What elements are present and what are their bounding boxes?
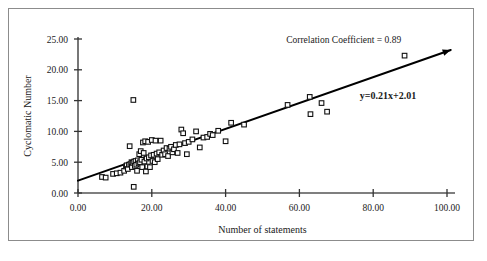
data-point-marker [210,133,215,138]
x-tick-label: 80.00 [363,203,385,213]
data-point-marker [135,169,140,174]
x-tick-label: 40.00 [215,203,237,213]
x-axis-title: Number of statements [218,224,306,235]
x-tick-label: 60.00 [289,203,311,213]
data-point-marker [216,128,221,133]
data-point-marker [325,109,330,114]
data-point-marker [148,165,153,170]
data-points-group [100,53,407,189]
data-point-marker [194,129,199,134]
y-tick-label: 15.00 [47,96,69,106]
data-point-marker [153,138,158,143]
data-point-marker [177,142,182,147]
scatter-plot: 0.0020.0040.0060.0080.00100.000.005.0010… [9,9,475,242]
y-tick-label: 20.00 [47,65,69,75]
data-point-marker [307,95,312,100]
data-point-marker [185,152,190,157]
x-tick-label: 20.00 [141,203,163,213]
data-point-marker [308,112,313,117]
data-point-marker [127,144,132,149]
data-point-marker [319,101,324,106]
trendline-arrow-head [442,49,451,55]
data-point-marker [190,137,195,142]
y-tick-label: 10.00 [47,127,69,137]
data-point-marker [402,53,407,58]
data-point-marker [131,98,136,103]
correlation-coefficient-label: Correlation Coefficient = 0.89 [286,35,401,45]
y-tick-label: 25.00 [47,35,69,45]
data-point-marker [158,138,163,143]
axes-group [74,37,455,197]
x-tick-label: 100.00 [434,203,460,213]
y-tick-label: 5.00 [51,158,68,168]
data-point-marker [175,151,180,156]
data-point-marker [181,131,186,136]
axis-labels-group: 0.0020.0040.0060.0080.00100.000.005.0010… [22,35,460,236]
x-tick-label: 0.00 [70,203,87,213]
data-point-marker [242,122,247,127]
y-tick-label: 0.00 [51,189,68,199]
data-point-marker [141,151,146,156]
y-axis-title: Cyclomatic Number [22,75,33,157]
regression-equation-label: y=0.21x+2.01 [360,90,416,101]
figure-frame: 0.0020.0040.0060.0080.00100.000.005.0010… [8,8,474,241]
data-point-marker [285,103,290,108]
data-point-marker [103,175,108,180]
chart-svg: 0.0020.0040.0060.0080.00100.000.005.0010… [9,9,475,242]
data-point-marker [131,185,136,190]
data-point-marker [223,139,228,144]
data-point-marker [197,145,202,150]
data-point-marker [229,120,234,125]
